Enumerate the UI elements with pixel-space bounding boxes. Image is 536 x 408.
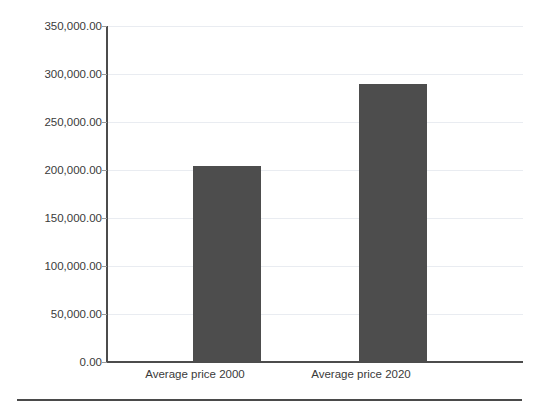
y-tick-mark-350000	[102, 26, 107, 27]
y-tick-label-100000: 100,000.00	[2, 260, 102, 272]
y-tick-mark-0	[102, 362, 107, 363]
bar-chart-figure: 350,000.00 300,000.00 250,000.00 200,000…	[0, 0, 536, 408]
gridline-250000	[107, 122, 523, 123]
gridline-200000	[107, 170, 523, 171]
y-tick-label-350000: 350,000.00	[2, 20, 102, 32]
footer-divider	[17, 399, 522, 401]
y-tick-label-50000: 50,000.00	[2, 308, 102, 320]
y-tick-label-250000: 250,000.00	[2, 116, 102, 128]
plot-area	[107, 26, 523, 362]
chart-title	[108, 0, 523, 3]
y-tick-label-200000: 200,000.00	[2, 164, 102, 176]
y-axis-line	[106, 26, 108, 363]
y-tick-mark-250000	[102, 122, 107, 123]
x-axis-line	[106, 361, 523, 363]
gridline-300000	[107, 74, 523, 75]
y-tick-mark-100000	[102, 266, 107, 267]
y-tick-label-150000: 150,000.00	[2, 212, 102, 224]
gridline-50000	[107, 314, 523, 315]
x-tick-label-average-price-2020: Average price 2020	[276, 368, 446, 380]
gridline-350000	[107, 26, 523, 27]
y-tick-label-0: 0.00	[2, 356, 102, 368]
y-tick-mark-300000	[102, 74, 107, 75]
gridline-100000	[107, 266, 523, 267]
y-tick-mark-200000	[102, 170, 107, 171]
y-axis-tick-labels: 350,000.00 300,000.00 250,000.00 200,000…	[0, 0, 102, 408]
y-tick-mark-50000	[102, 314, 107, 315]
y-tick-mark-150000	[102, 218, 107, 219]
gridline-150000	[107, 218, 523, 219]
y-tick-label-300000: 300,000.00	[2, 68, 102, 80]
bar-average-price-2000[interactable]	[193, 166, 261, 362]
x-tick-label-average-price-2000: Average price 2000	[110, 368, 280, 380]
bar-average-price-2020[interactable]	[359, 84, 427, 362]
